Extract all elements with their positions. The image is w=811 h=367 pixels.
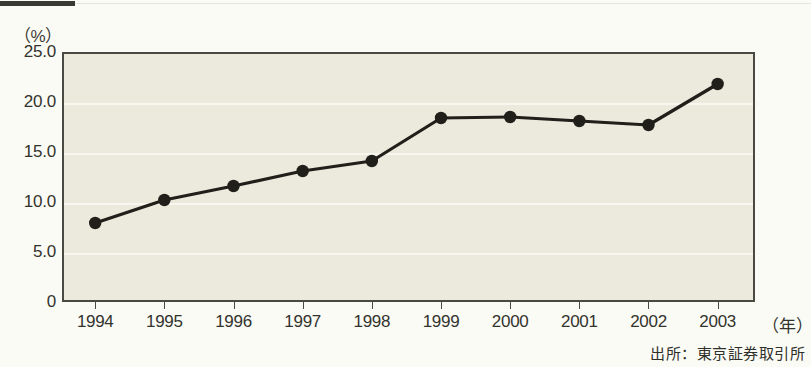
x-tick-2000 xyxy=(510,302,511,309)
plot-gridlines xyxy=(64,54,753,300)
plot-area xyxy=(62,52,755,302)
top-hairline xyxy=(0,3,811,4)
x-tick-label-2003: 2003 xyxy=(683,312,753,332)
x-tick-2003 xyxy=(718,302,719,309)
x-tick-1994 xyxy=(95,302,96,309)
y-tick-label-25: 25.0 xyxy=(2,42,56,62)
gridline-5 xyxy=(64,253,753,255)
x-tick-label-2002: 2002 xyxy=(613,312,683,332)
source-note: 出所：東京証券取引所 xyxy=(650,342,805,363)
y-tick-label-10: 10.0 xyxy=(2,192,56,212)
x-tick-label-1998: 1998 xyxy=(337,312,407,332)
x-tick-label-1995: 1995 xyxy=(129,312,199,332)
x-tick-1997 xyxy=(303,302,304,309)
x-tick-label-2001: 2001 xyxy=(544,312,614,332)
x-tick-label-1994: 1994 xyxy=(60,312,130,332)
x-tick-label-2000: 2000 xyxy=(475,312,545,332)
x-tick-label-1999: 1999 xyxy=(406,312,476,332)
x-tick-2002 xyxy=(648,302,649,309)
gridline-10 xyxy=(64,203,753,205)
x-tick-1995 xyxy=(164,302,165,309)
y-axis: 25.020.015.010.05.00 xyxy=(0,0,56,367)
y-tick-label-20: 20.0 xyxy=(2,92,56,112)
y-tick-label-0: 0 xyxy=(2,292,56,312)
gridline-15 xyxy=(64,153,753,155)
x-tick-2001 xyxy=(579,302,580,309)
x-axis-unit-label: （年） xyxy=(762,312,811,337)
x-tick-1996 xyxy=(234,302,235,309)
x-tick-label-1997: 1997 xyxy=(268,312,338,332)
y-tick-label-15: 15.0 xyxy=(2,142,56,162)
x-tick-label-1996: 1996 xyxy=(199,312,269,332)
x-tick-1998 xyxy=(372,302,373,309)
x-tick-1999 xyxy=(441,302,442,309)
y-tick-label-5: 5.0 xyxy=(2,242,56,262)
gridline-20 xyxy=(64,103,753,105)
